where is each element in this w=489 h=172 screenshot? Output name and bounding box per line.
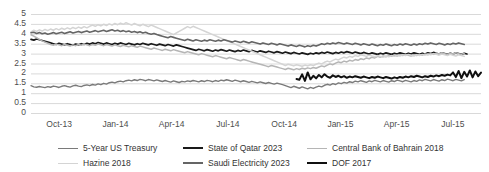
- legend-color-swatch: [183, 147, 203, 149]
- legend-label: State of Qatar 2023: [208, 144, 282, 153]
- x-axis-tick-label: Jan-15: [317, 120, 363, 129]
- x-axis-tick-label: Apr-14: [149, 120, 195, 129]
- x-axis-tick-label: Oct-13: [36, 120, 82, 129]
- gridlines: [31, 15, 481, 114]
- legend-item[interactable]: Central Bank of Bahrain 2018: [307, 142, 444, 154]
- legend-item[interactable]: Saudi Electricity 2023: [183, 157, 290, 169]
- x-axis-tick-label: Oct-14: [261, 120, 307, 129]
- legend-item[interactable]: 5-Year US Treasury: [58, 142, 157, 154]
- yield-comparison-chart: 00.511.522.533.544.55 Oct-13Jan-14Apr-14…: [0, 0, 489, 172]
- series-line-state-of-qatar-2023: [31, 39, 467, 54]
- x-axis-tick-label: Apr-15: [374, 120, 420, 129]
- y-axis-tick-label: 2: [0, 68, 26, 77]
- y-axis-tick-label: 0: [0, 108, 26, 117]
- legend-color-swatch: [58, 148, 78, 149]
- y-axis-tick-label: 2.5: [0, 59, 26, 68]
- x-axis-tick-label: Jul-15: [430, 120, 476, 129]
- legend-item[interactable]: DOF 2017: [307, 157, 371, 169]
- series-line-dof-2017: [297, 70, 481, 80]
- y-axis-tick-label: 1: [0, 88, 26, 97]
- y-axis-tick-label: 0.5: [0, 98, 26, 107]
- legend-label: Hazine 2018: [83, 159, 131, 168]
- legend-color-swatch: [307, 148, 327, 149]
- legend-label: Saudi Electricity 2023: [208, 159, 290, 168]
- y-axis-tick-label: 4.5: [0, 19, 26, 28]
- legend-color-swatch: [183, 162, 203, 164]
- series-lines: [31, 23, 481, 89]
- legend-color-swatch: [58, 163, 78, 164]
- chart-legend: 5-Year US TreasuryState of Qatar 2023Cen…: [0, 140, 489, 172]
- x-axis-tick-label: Jul-14: [205, 120, 251, 129]
- y-axis-tick-label: 3.5: [0, 39, 26, 48]
- legend-item[interactable]: Hazine 2018: [58, 157, 131, 169]
- legend-item[interactable]: State of Qatar 2023: [183, 142, 282, 154]
- y-axis-tick-label: 3: [0, 49, 26, 58]
- y-axis-tick-label: 5: [0, 9, 26, 18]
- x-axis-tick-label: Jan-14: [92, 120, 138, 129]
- y-axis-tick-label: 4: [0, 29, 26, 38]
- y-axis-tick-label: 1.5: [0, 78, 26, 87]
- legend-label: 5-Year US Treasury: [83, 144, 157, 153]
- legend-label: DOF 2017: [332, 159, 371, 168]
- legend-label: Central Bank of Bahrain 2018: [332, 144, 444, 153]
- legend-color-swatch: [307, 162, 327, 164]
